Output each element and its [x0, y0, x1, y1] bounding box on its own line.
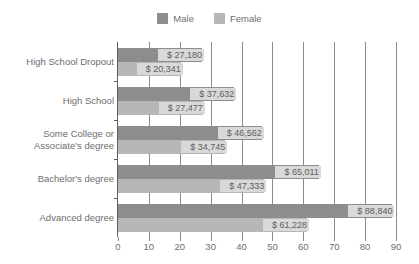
- x-axis-tick-label: 20: [174, 241, 185, 252]
- category-label-line: Some College or: [2, 128, 114, 140]
- legend-label: Female: [230, 13, 262, 24]
- bar-value-label: $ 88,840: [348, 205, 394, 217]
- plot-area: $ 27,180$ 20,341$ 37,632$ 27,477$ 46,562…: [118, 42, 396, 237]
- bar-group: $ 88,840$ 61,228: [118, 204, 396, 232]
- x-axis-tick-label: 80: [360, 241, 371, 252]
- x-axis-tick-label: 90: [391, 241, 402, 252]
- y-axis-category-label: Advanced degree: [2, 212, 114, 224]
- bar-group: $ 46,562$ 34,745: [118, 126, 396, 154]
- bar-value-label: $ 27,477: [159, 102, 205, 114]
- x-axis-tick-label: 60: [298, 241, 309, 252]
- bar-value-label: $ 65,011: [275, 166, 321, 178]
- y-axis-tick: [114, 198, 118, 199]
- bar-value-label: $ 37,632: [190, 88, 236, 100]
- legend-swatch-icon: [214, 13, 225, 24]
- bar-value-label: $ 27,180: [158, 49, 204, 61]
- x-axis-tick-label: 70: [329, 241, 340, 252]
- category-label-line: High School: [2, 95, 114, 107]
- legend-swatch-icon: [157, 13, 168, 24]
- y-axis-category-label: Some College orAssociate's degree: [2, 128, 114, 151]
- y-axis-category-label: High School Dropout: [2, 56, 114, 68]
- legend-entry-male[interactable]: Male: [157, 13, 194, 24]
- y-axis-category-label: High School: [2, 95, 114, 107]
- legend-label: Male: [173, 13, 194, 24]
- bar-value-label: $ 20,341: [137, 63, 183, 75]
- chart-legend: MaleFemale: [0, 13, 419, 24]
- y-axis-tick: [114, 81, 118, 82]
- gridline-90: [396, 42, 397, 237]
- x-axis-tick-label: 0: [115, 241, 120, 252]
- bar-value-label: $ 61,228: [263, 219, 309, 231]
- category-label-line: Associate's degree: [2, 140, 114, 152]
- y-axis-category-labels: High School DropoutHigh SchoolSome Colle…: [0, 42, 114, 237]
- x-axis-tick-label: 40: [236, 241, 247, 252]
- bar-value-label: $ 46,562: [218, 127, 264, 139]
- category-label-line: Bachelor's degree: [2, 173, 114, 185]
- y-axis-tick: [114, 120, 118, 121]
- category-label-line: Advanced degree: [2, 212, 114, 224]
- x-axis-tick-label: 50: [267, 241, 278, 252]
- y-axis-category-label: Bachelor's degree: [2, 173, 114, 185]
- y-axis-tick: [114, 159, 118, 160]
- bar-value-label: $ 47,333: [220, 180, 266, 192]
- x-axis-tick-label: 10: [144, 241, 155, 252]
- bar-group: $ 27,180$ 20,341: [118, 48, 396, 76]
- grouped-bar-chart: MaleFemale High School DropoutHigh Schoo…: [0, 0, 419, 264]
- x-axis-tick-label: 30: [205, 241, 216, 252]
- category-label-line: High School Dropout: [2, 56, 114, 68]
- bar-value-label: $ 34,745: [181, 141, 227, 153]
- bar-group: $ 37,632$ 27,477: [118, 87, 396, 115]
- legend-entry-female[interactable]: Female: [214, 13, 262, 24]
- bar-group: $ 65,011$ 47,333: [118, 165, 396, 193]
